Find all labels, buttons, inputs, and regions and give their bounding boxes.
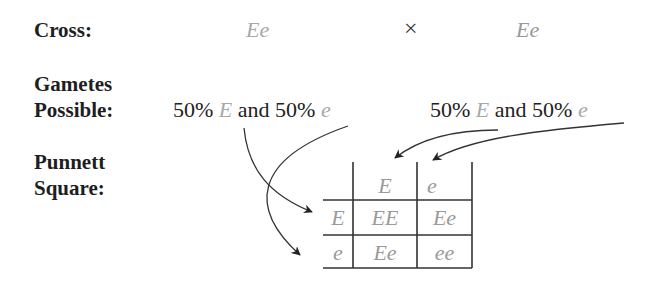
cell-Ee: Ee [353, 238, 417, 268]
cell-ee: ee [417, 238, 472, 268]
cell-Ee: Ee [417, 203, 472, 233]
col-header-E: E [353, 171, 417, 201]
cell-EE: EE [353, 203, 417, 233]
arrow-icon [433, 123, 624, 160]
row-header-e: e [323, 238, 353, 268]
arrow-icon [244, 128, 312, 212]
row-header-E: E [323, 203, 353, 233]
col-header-e: e [417, 171, 447, 201]
